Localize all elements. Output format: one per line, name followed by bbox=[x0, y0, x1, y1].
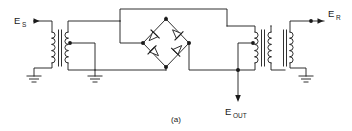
schematic-figure: E S E OUT E R (a) bbox=[0, 0, 352, 131]
source-input-branch bbox=[34, 18, 53, 32]
source-input-arrow-icon bbox=[34, 18, 40, 24]
ground-secondary-centertap-icon bbox=[88, 76, 102, 82]
label-output: E OUT bbox=[225, 106, 247, 119]
label-source-base: E bbox=[14, 15, 20, 26]
bridge-arm-top-left bbox=[143, 19, 166, 43]
junction-dot-output-tap bbox=[251, 41, 255, 45]
reference-input-arrow-icon bbox=[318, 18, 324, 24]
center-tap-wire bbox=[70, 43, 95, 70]
transformer-T3-secondary-winding bbox=[268, 32, 271, 63]
transformer-T1-primary-winding bbox=[52, 32, 55, 63]
transformer-T1-secondary-winding bbox=[65, 32, 68, 63]
output-tap-wire bbox=[238, 43, 253, 95]
bridge-right-output-rail bbox=[189, 43, 238, 70]
T3-secondary-bottom-stub bbox=[271, 63, 285, 70]
label-output-subscript: OUT bbox=[233, 112, 247, 119]
secondary-bottom-rail bbox=[68, 63, 166, 70]
transformer-T1-core bbox=[59, 30, 62, 66]
junction-dot-bridge-left bbox=[141, 41, 145, 45]
figure-caption: (a) bbox=[171, 115, 181, 124]
ground-reference-primary-icon bbox=[299, 76, 313, 82]
transformer-T4-core bbox=[284, 30, 287, 66]
bridge-rectifier-diamond bbox=[143, 19, 189, 67]
output-transformer-top-lead bbox=[227, 26, 255, 32]
junction-dot-output-rail bbox=[236, 68, 240, 72]
circuit-diagram-canvas: E S E OUT E R (a) bbox=[0, 0, 352, 131]
bridge-arm-bottom-right bbox=[166, 43, 189, 67]
reference-ground-lead bbox=[290, 63, 306, 76]
ground-input-primary-icon bbox=[27, 76, 41, 82]
transformer-T3-primary-winding bbox=[255, 32, 258, 63]
reference-top-lead bbox=[290, 21, 311, 32]
source-lead-wire bbox=[34, 21, 53, 32]
label-reference-subscript: R bbox=[336, 14, 341, 21]
output-transformer-bottom-lead bbox=[238, 63, 255, 70]
label-source: E S bbox=[14, 15, 27, 28]
label-reference-base: E bbox=[328, 8, 334, 19]
junction-dot-reference bbox=[309, 19, 313, 23]
bridge-arm-top-right bbox=[166, 19, 189, 43]
transformer-T3-core bbox=[262, 30, 265, 66]
diode-bottom-right-icon bbox=[172, 46, 182, 56]
secondary-top-rail bbox=[68, 21, 120, 32]
bridge-top-over-rail bbox=[120, 9, 227, 26]
junction-dot-bridge-top bbox=[164, 17, 168, 21]
label-reference: E R bbox=[328, 8, 341, 21]
ground-lead-input-primary bbox=[34, 63, 52, 76]
bridge-left-node-feed bbox=[120, 21, 143, 43]
junction-dot-center-tap bbox=[68, 41, 72, 45]
label-output-base: E bbox=[225, 106, 231, 117]
transformer-T4-secondary-winding bbox=[290, 32, 293, 63]
output-arrow-icon bbox=[235, 95, 241, 102]
label-source-subscript: S bbox=[22, 21, 27, 28]
